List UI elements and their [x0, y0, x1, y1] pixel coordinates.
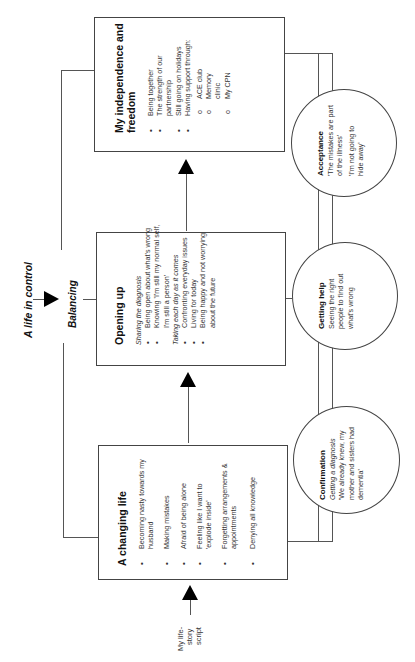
box-independence-content: My independence and freedom Being togeth…	[113, 23, 232, 133]
left-frame-line-top	[61, 70, 62, 250]
circle-confirmation-content: Confirmation Getting a diagnosis 'We alr…	[318, 420, 366, 500]
circle-text: Seeing the right people to find out what…	[327, 267, 355, 329]
right-connector-bottom-h	[287, 541, 333, 542]
arrowhead-right-icon	[44, 291, 59, 307]
start-label: My life- story script	[176, 627, 203, 651]
list-item: Still going on holidays	[174, 23, 183, 133]
box-title: Opening up	[113, 220, 125, 345]
list-item: Living for today	[189, 220, 198, 345]
circle-title: Confirmation	[318, 420, 328, 500]
support-sublist: ACE club Memory clinic My CPN	[195, 63, 232, 133]
left-frame-line-bottom	[63, 343, 64, 538]
independence-list: Being together The strength of our partn…	[146, 23, 192, 133]
list-item: Making mistakes	[162, 456, 171, 566]
sub-list-item: My CPN	[223, 63, 232, 133]
circle-title: Acceptance	[316, 104, 326, 176]
box-title: My independence and freedom	[113, 23, 137, 133]
box-title: A changing life	[116, 456, 128, 566]
left-frame-top-connector	[61, 70, 95, 71]
balancing-label: Balancing	[67, 280, 78, 328]
circle-getting-help-content: Getting help Seeing the right people to …	[317, 267, 355, 329]
arrowhead-up-icon	[180, 372, 196, 387]
taking-each-day-list: Confronting everyday issues Living for t…	[180, 220, 217, 345]
balancing-connector	[83, 299, 96, 300]
sub-list-item: ACE club	[195, 63, 204, 133]
changing-life-list: Becoming nasty towards my husband Making…	[137, 456, 257, 566]
list-item: Feeling like I want to 'explode inside'	[195, 456, 213, 566]
list-item: Forgetting arrangements & appointments	[220, 456, 238, 566]
arrowhead-up-icon	[178, 159, 194, 174]
group-heading: Taking each day as it comes	[171, 220, 180, 345]
list-item: Confronting everyday issues	[180, 220, 189, 345]
list-item: Knowing 'I'm still my normal self, I'm s…	[152, 220, 170, 345]
circle-quote: 'We already knew, my mother and sisters …	[337, 420, 365, 500]
circle-quote: 'The mistakes are part of the illness'	[326, 104, 345, 176]
list-item: Afraid of being alone	[179, 456, 188, 566]
opening-up-to-getting-help	[285, 298, 292, 299]
right-connector-top-h	[284, 53, 333, 54]
arrowhead-up-icon	[182, 585, 198, 600]
left-frame-bottom-connector	[63, 537, 99, 538]
circle-subtitle: Getting a diagnosis	[328, 420, 337, 500]
group-heading: Sharing the diagnosis	[134, 220, 143, 345]
list-item: Denying all knowledge	[248, 456, 257, 566]
sub-list-item: Memory clinic	[204, 63, 222, 133]
list-item: Being happy and not worrying about the f…	[198, 220, 216, 345]
sharing-list: Being open about what's wrong Knowing 'I…	[143, 220, 171, 345]
circle-acceptance-content: Acceptance 'The mistakes are part of the…	[316, 104, 366, 176]
list-item: Becoming nasty towards my husband	[137, 456, 155, 566]
list-item: Being open about what's wrong	[143, 220, 152, 345]
life-in-control-label: A life in control	[22, 262, 34, 338]
arrow-shaft-changing-to-opening	[188, 385, 189, 443]
box-changing-life-content: A changing life Becoming nasty towards m…	[116, 456, 257, 566]
box-opening-up-content: Opening up Sharing the diagnosis Being o…	[113, 220, 217, 345]
list-item: The strength of our partnership	[155, 23, 173, 133]
circle-title: Getting help	[317, 267, 327, 329]
circle-quote: 'I'm not going to hide away'	[347, 118, 366, 176]
list-item: Being together	[146, 23, 155, 133]
arrow-shaft-start	[190, 599, 191, 615]
list-item: Having support through:	[183, 23, 192, 133]
